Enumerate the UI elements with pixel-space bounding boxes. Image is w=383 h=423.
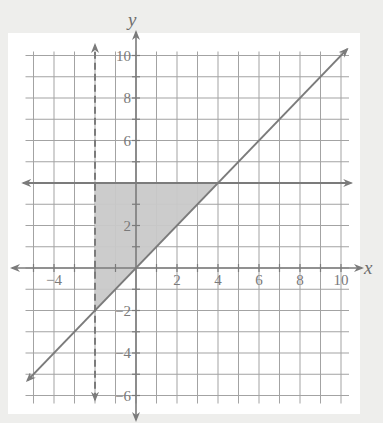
- x-axis-label: x: [363, 257, 373, 278]
- y-tick-label: −2: [115, 303, 131, 319]
- x-tick-label: 6: [255, 272, 263, 288]
- y-tick-label: 8: [124, 90, 132, 106]
- y-tick-label: 6: [124, 133, 132, 149]
- y-axis-label: y: [126, 9, 137, 30]
- x-tick-label: −4: [46, 272, 62, 288]
- x-tick-label: 4: [214, 272, 222, 288]
- y-tick-label: −4: [115, 345, 131, 361]
- y-tick-label: 2: [124, 218, 132, 234]
- x-tick-label: 8: [296, 272, 304, 288]
- graph-canvas: −4246810 10862−2−4−6 x y: [0, 0, 383, 423]
- y-tick-label: 10: [116, 48, 131, 64]
- x-tick-label: 10: [334, 272, 349, 288]
- x-tick-label: 2: [173, 272, 181, 288]
- y-tick-label: −6: [115, 388, 131, 404]
